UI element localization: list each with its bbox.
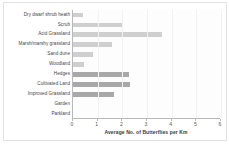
gridline bbox=[172, 10, 173, 118]
x-tick-label: 5 bbox=[194, 122, 197, 127]
category-label: Cultivated Land bbox=[37, 82, 70, 87]
x-tick-label: 2 bbox=[120, 122, 123, 127]
bar bbox=[73, 72, 129, 77]
category-label: Parkland bbox=[51, 112, 70, 117]
bar bbox=[73, 13, 83, 18]
chart-frame: Dry dwarf shrub heathScrubAcid Grassland… bbox=[3, 2, 227, 141]
category-label: Hedges bbox=[54, 72, 70, 77]
plot-area: Dry dwarf shrub heathScrubAcid Grassland… bbox=[72, 10, 220, 119]
gridline bbox=[221, 10, 222, 118]
category-label: Improved Grassland bbox=[28, 92, 70, 97]
gridline bbox=[98, 10, 99, 118]
gridline bbox=[122, 10, 123, 118]
x-tick-label: 0 bbox=[71, 122, 74, 127]
category-label: Garden bbox=[54, 102, 70, 107]
x-tick-label: 4 bbox=[169, 122, 172, 127]
butterfly-bar-chart-figure: Dry dwarf shrub heathScrubAcid Grassland… bbox=[0, 0, 230, 146]
bar bbox=[73, 62, 84, 67]
gridline bbox=[147, 10, 148, 118]
gridline bbox=[196, 10, 197, 118]
x-axis-title: Average No. of Butterflies per Km bbox=[72, 130, 220, 135]
category-label: Acid Grassland bbox=[38, 32, 70, 37]
category-label: Marsh/marshy grassland bbox=[19, 42, 70, 47]
category-label: Sand dune bbox=[47, 52, 70, 57]
bar bbox=[73, 82, 130, 87]
x-tick-label: 3 bbox=[145, 122, 148, 127]
x-tick-label: 1 bbox=[95, 122, 98, 127]
bar bbox=[73, 52, 93, 57]
bar bbox=[73, 32, 162, 37]
x-tick-label: 6 bbox=[219, 122, 222, 127]
bar bbox=[73, 42, 112, 47]
x-axis-ticks: 0123456 bbox=[72, 119, 220, 128]
category-label: Scrub bbox=[58, 23, 70, 28]
category-label: Dry dwarf shrub heath bbox=[24, 13, 70, 18]
bar bbox=[73, 92, 114, 97]
category-label: Woodland bbox=[49, 62, 70, 67]
